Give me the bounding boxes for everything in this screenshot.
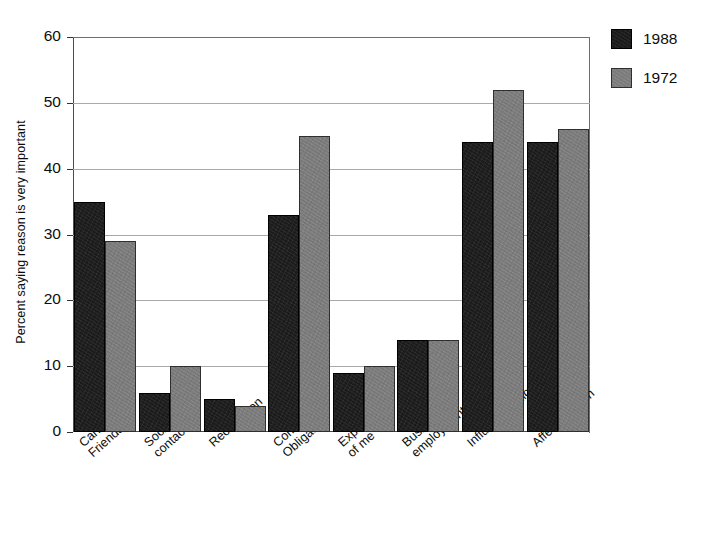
legend-swatch-1972-icon xyxy=(611,68,632,88)
legend-label-1988: 1988 xyxy=(643,30,677,48)
bar-1988-2 xyxy=(204,399,235,432)
y-axis-tick-label: 10 xyxy=(15,356,61,374)
bar-1988-1 xyxy=(139,393,170,433)
bar-1988-6 xyxy=(462,142,493,432)
bars-layer xyxy=(73,37,590,432)
bar-1972-0 xyxy=(105,241,136,432)
bar-chart: Percent saying reason is very important … xyxy=(0,0,712,551)
bar-1988-0 xyxy=(74,202,105,432)
legend-item-1988: 1988 xyxy=(611,28,709,49)
bar-1972-4 xyxy=(364,366,395,432)
bar-1972-2 xyxy=(235,406,266,432)
bar-1972-6 xyxy=(493,90,524,432)
y-axis-tick-label: 60 xyxy=(15,27,61,45)
bar-1988-5 xyxy=(397,340,428,432)
y-axis-tick-label: 50 xyxy=(15,93,61,111)
bar-1972-5 xyxy=(428,340,459,432)
bar-1972-1 xyxy=(170,366,201,432)
bar-1988-3 xyxy=(268,215,299,432)
y-axis-tick-label: 30 xyxy=(15,225,61,243)
y-axis-tick-label: 20 xyxy=(15,290,61,308)
legend: 1988 1972 xyxy=(611,28,709,106)
bar-1972-3 xyxy=(299,136,330,432)
legend-item-1972: 1972 xyxy=(611,67,709,88)
legend-swatch-1988-icon xyxy=(611,29,632,49)
y-axis-tick-label: 40 xyxy=(15,159,61,177)
bar-1988-7 xyxy=(527,142,558,432)
bar-1988-4 xyxy=(333,373,364,432)
legend-label-1972: 1972 xyxy=(643,69,677,87)
x-axis-labels: CandidateFriendshipSocialcontactRecognit… xyxy=(0,432,712,551)
bar-1972-7 xyxy=(558,129,589,432)
